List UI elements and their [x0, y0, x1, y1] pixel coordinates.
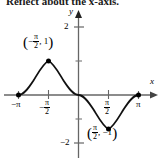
fraction-pi-over-2: π2: [104, 99, 110, 116]
x-tick-label-pi: π: [136, 99, 141, 109]
graph-canvas: [0, 0, 161, 160]
fraction-numerator: π: [44, 99, 50, 107]
close-paren: ): [48, 34, 53, 50]
min-point-label: (π2, −1): [87, 124, 117, 141]
y-tick-label-2: 2: [64, 21, 69, 31]
point-marker-maximum: [46, 59, 51, 64]
x-axis-label: x: [150, 76, 154, 86]
point-marker-right-endpoint: [136, 93, 141, 98]
graph-figure: Reflect about the x-axis. x y 2 −2 −: [0, 0, 161, 160]
x-axis-arrow-icon: [150, 92, 158, 99]
y-value: −1: [103, 127, 113, 137]
fraction-denominator: 2: [104, 107, 110, 116]
x-tick-label-neg-pi-over-2: −π2: [39, 99, 50, 116]
max-point-label: (−π2, 1): [23, 33, 53, 50]
point-marker-left-endpoint: [16, 93, 21, 98]
x-tick-label-pi-over-2: π2: [104, 99, 110, 116]
y-axis-label: y: [69, 6, 73, 16]
close-paren: ): [112, 125, 117, 141]
fraction-pi-over-2: π2: [44, 99, 50, 116]
fraction-denominator: 2: [44, 107, 50, 116]
x-tick-label-neg-pi: −π: [11, 99, 21, 109]
y-axis-arrow-icon: [75, 10, 82, 18]
fraction-numerator: π: [104, 99, 110, 107]
y-tick-label-neg2: −2: [60, 137, 70, 147]
